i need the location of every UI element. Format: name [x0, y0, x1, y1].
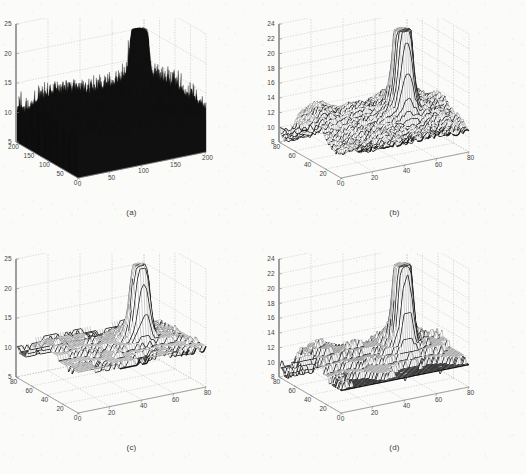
y-tick-label: 20 — [319, 170, 327, 177]
figure-panel-grid: 510152025050100150200050100150200 (a) 81… — [0, 0, 526, 474]
x-tick-label: 20 — [371, 174, 379, 181]
x-tick-label: 20 — [371, 409, 379, 416]
z-tick-label: 24 — [267, 255, 275, 262]
x-tick-label: 0 — [341, 415, 345, 422]
x-tick-label: 80 — [467, 154, 475, 161]
caption-c: (c) — [0, 443, 263, 452]
z-tick-label: 20 — [4, 285, 12, 292]
z-tick-label: 16 — [267, 79, 275, 86]
plot-grid — [279, 253, 469, 413]
x-tick-label: 0 — [341, 180, 345, 187]
x-tick-label: 40 — [140, 402, 148, 409]
z-tick-label: 22 — [267, 270, 275, 277]
x-tick-label: 200 — [202, 154, 213, 161]
y-tick-label: 40 — [304, 396, 312, 403]
z-tick-label: 16 — [267, 314, 275, 321]
x-tick-label: 20 — [108, 409, 116, 416]
y-tick-label: 150 — [24, 152, 35, 159]
z-tick-label: 14 — [267, 94, 275, 101]
z-tick-label: 12 — [267, 109, 275, 116]
subplot-c: 510152025020406080020406080 — [0, 253, 263, 453]
plot-surface — [16, 263, 206, 374]
z-tick-label: 20 — [267, 50, 275, 57]
x-tick-label: 60 — [435, 161, 443, 168]
plot-surface — [279, 27, 469, 154]
y-tick-label: 0 — [337, 179, 341, 186]
y-tick-label: 40 — [41, 396, 49, 403]
caption-a: (a) — [0, 208, 263, 217]
plot-surface — [279, 262, 469, 390]
subplot-d: 81012141618202224020406080020406080 — [263, 253, 526, 453]
caption-d: (d) — [263, 443, 526, 452]
y-tick-label: 50 — [56, 170, 64, 177]
x-tick-label: 0 — [78, 180, 82, 187]
y-tick-label: 60 — [25, 387, 33, 394]
y-tick-label: 200 — [8, 143, 19, 150]
y-tick-label: 20 — [319, 405, 327, 412]
surface-plot-d: 81012141618202224020406080020406080 — [263, 253, 526, 453]
x-tick-label: 80 — [204, 389, 212, 396]
z-tick-label: 10 — [267, 124, 275, 131]
y-tick-label: 20 — [56, 405, 64, 412]
x-tick-label: 60 — [435, 396, 443, 403]
y-tick-label: 0 — [74, 414, 78, 421]
surface-plot-a: 510152025050100150200050100150200 — [0, 18, 263, 218]
z-tick-label: 22 — [267, 35, 275, 42]
y-tick-label: 0 — [337, 414, 341, 421]
y-tick-label: 80 — [273, 143, 281, 150]
y-tick-label: 80 — [10, 378, 18, 385]
y-tick-label: 60 — [288, 152, 296, 159]
surface-plot-c: 510152025020406080020406080 — [0, 253, 263, 453]
z-tick-label: 20 — [267, 285, 275, 292]
x-tick-label: 40 — [403, 402, 411, 409]
z-tick-label: 25 — [4, 255, 12, 262]
z-tick-label: 24 — [267, 20, 275, 27]
z-tick-label: 10 — [4, 344, 12, 351]
subplot-b: 81012141618202224020406080020406080 — [263, 18, 526, 218]
y-tick-label: 40 — [304, 161, 312, 168]
x-tick-label: 100 — [138, 167, 149, 174]
z-tick-label: 25 — [4, 20, 12, 27]
z-tick-label: 18 — [267, 65, 275, 72]
y-tick-label: 100 — [39, 161, 50, 168]
subplot-a: 510152025050100150200050100150200 — [0, 18, 263, 218]
x-tick-label: 60 — [172, 396, 180, 403]
surface-plot-b: 81012141618202224020406080020406080 — [263, 18, 526, 218]
caption-b: (b) — [263, 208, 526, 217]
x-tick-label: 50 — [108, 174, 116, 181]
y-tick-label: 80 — [273, 378, 281, 385]
z-tick-label: 18 — [267, 300, 275, 307]
plot-surface — [16, 27, 206, 178]
x-tick-label: 40 — [403, 167, 411, 174]
x-tick-label: 0 — [78, 415, 82, 422]
z-tick-label: 20 — [4, 50, 12, 57]
z-tick-label: 12 — [267, 344, 275, 351]
z-tick-label: 14 — [267, 329, 275, 336]
x-tick-label: 150 — [170, 161, 181, 168]
z-tick-label: 10 — [267, 359, 275, 366]
y-tick-label: 0 — [74, 179, 78, 186]
x-tick-label: 80 — [467, 389, 475, 396]
z-tick-label: 15 — [4, 79, 12, 86]
y-tick-label: 60 — [288, 387, 296, 394]
z-tick-label: 15 — [4, 314, 12, 321]
z-tick-label: 10 — [4, 109, 12, 116]
